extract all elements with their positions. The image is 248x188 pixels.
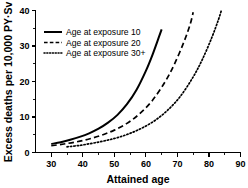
y-tick-label: 40 [19, 6, 29, 16]
x-axis-ticks [51, 153, 240, 157]
y-tick-label: 30 [19, 41, 29, 51]
y-axis-tick-labels: 010203040 [19, 6, 29, 158]
excess-deaths-line-chart: 010203040 30405060708090 Age at exposure… [0, 0, 248, 188]
x-axis-title: Attained age [106, 173, 169, 185]
x-tick-label: 60 [141, 159, 151, 169]
x-tick-label: 90 [235, 159, 245, 169]
y-tick-label: 10 [19, 112, 29, 122]
legend-label-2: Age at exposure 20 [66, 38, 141, 48]
x-tick-label: 80 [204, 159, 214, 169]
x-axis-tick-labels: 30405060708090 [46, 159, 245, 169]
x-tick-label: 50 [109, 159, 119, 169]
y-tick-label: 20 [19, 77, 29, 87]
chart-container: 010203040 30405060708090 Age at exposure… [0, 0, 248, 188]
y-axis-ticks [32, 11, 36, 153]
y-tick-label: 0 [24, 148, 29, 158]
chart-legend: Age at exposure 10Age at exposure 20Age … [44, 27, 146, 58]
legend-label-3: Age at exposure 30+ [66, 48, 146, 58]
legend-label-1: Age at exposure 10 [66, 27, 141, 37]
y-axis-title: Excess deaths per 10,000 PY·Sv [2, 2, 14, 163]
x-tick-label: 40 [78, 159, 88, 169]
x-tick-label: 30 [46, 159, 56, 169]
x-tick-label: 70 [172, 159, 182, 169]
